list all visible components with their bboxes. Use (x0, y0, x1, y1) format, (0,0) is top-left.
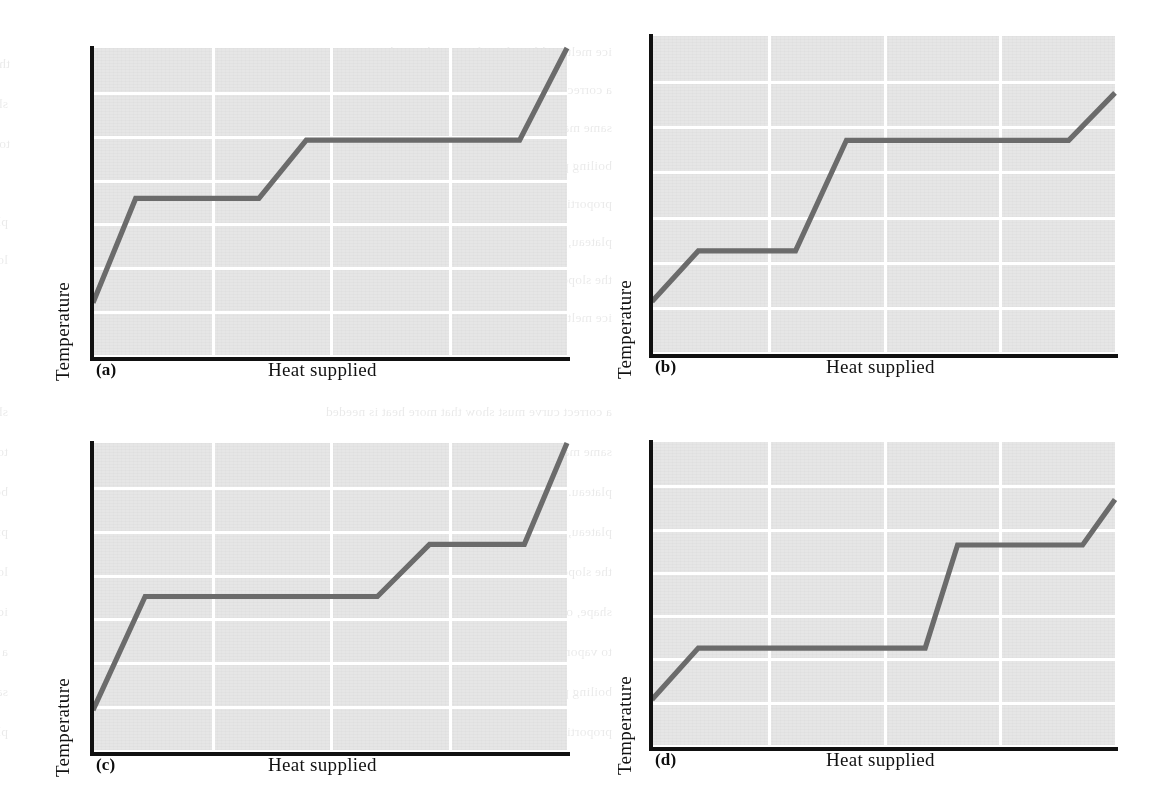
panel-a-y-axis-label: Temperature (52, 282, 74, 381)
panel-b-x-axis-label: Heat supplied (826, 356, 935, 378)
panel-a-plot (93, 48, 567, 355)
panel-d-y-axis-line (649, 440, 653, 749)
panel-b-y-axis-label: Temperature (614, 280, 636, 379)
panel-b-data-line (652, 93, 1115, 302)
panel-b-curve (652, 36, 1115, 352)
panel-d-data-line (652, 500, 1115, 700)
panel-d-y-axis-label: Temperature (614, 676, 636, 775)
panel-a-y-axis-line (90, 46, 94, 359)
panel-c-plot (93, 443, 567, 750)
panel-c-y-axis-label: Temperature (52, 678, 74, 777)
panel-b-letter: (b) (655, 357, 676, 377)
heating-curve-figure: Temperature(a)Heat suppliedTemperature(b… (0, 0, 1150, 794)
panel-c-curve (93, 443, 567, 750)
panel-a-data-line (93, 48, 567, 303)
panel-c-x-axis-label: Heat supplied (268, 754, 377, 776)
panel-d-letter: (d) (655, 750, 676, 770)
panel-a-curve (93, 48, 567, 355)
panel-d-plot (652, 442, 1115, 745)
panel-c-letter: (c) (96, 755, 115, 775)
panel-a-letter: (a) (96, 360, 116, 380)
panel-b-y-axis-line (649, 34, 653, 356)
panel-c-data-line (93, 443, 567, 710)
panel-b-plot (652, 36, 1115, 352)
panel-d-curve (652, 442, 1115, 745)
panel-c-y-axis-line (90, 441, 94, 754)
panel-d-x-axis-label: Heat supplied (826, 749, 935, 771)
panel-a-x-axis-label: Heat supplied (268, 359, 377, 381)
